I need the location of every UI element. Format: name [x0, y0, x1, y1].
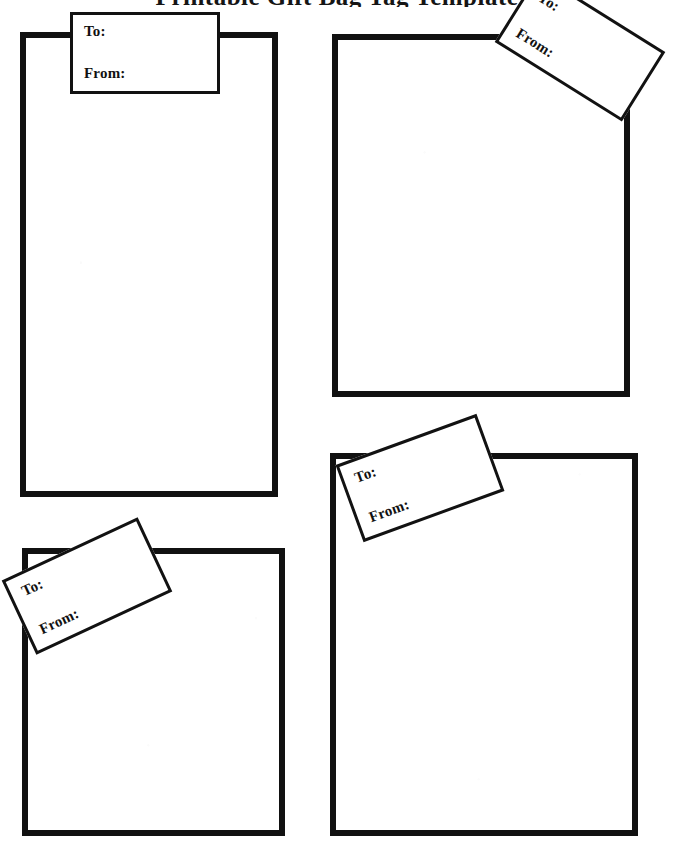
- tag-to-label-1: To:: [84, 24, 217, 39]
- worksheet-page: Printable Gift Bag Tag Template To: From…: [0, 0, 674, 847]
- tag-from-label-1: From:: [84, 66, 217, 81]
- gift-tag-1[interactable]: To: From:: [70, 12, 220, 94]
- bag-outline-1: [20, 32, 278, 497]
